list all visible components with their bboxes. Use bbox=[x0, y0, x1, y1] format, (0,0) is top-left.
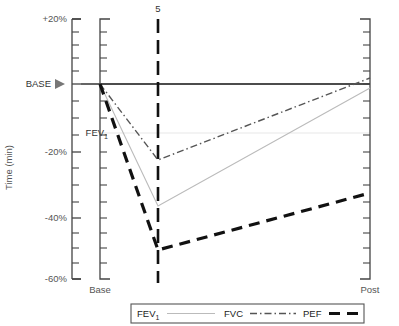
legend-label-pef: PEF bbox=[303, 308, 322, 319]
chart-legend: FEV1 FVC PEF bbox=[131, 304, 364, 323]
legend-label-fvc: FVC bbox=[224, 308, 243, 319]
x-tick-label-base: Base bbox=[89, 284, 111, 295]
x-tick-label-post: Post bbox=[360, 284, 379, 295]
line-chart: +20% -20% -40% -60% Time (min) BASE FEV1 bbox=[0, 0, 399, 326]
chart-container: +20% -20% -40% -60% Time (min) BASE FEV1 bbox=[0, 0, 399, 326]
y-axis-title: Time (min) bbox=[3, 145, 14, 190]
y-tick-label-minus60: -60% bbox=[45, 273, 68, 284]
time-marker-label: 5 bbox=[155, 3, 160, 14]
y-tick-label-minus20: -20% bbox=[45, 146, 68, 157]
y-tick-label-plus20: +20% bbox=[42, 13, 67, 24]
base-label: BASE bbox=[26, 78, 51, 89]
y-tick-label-minus40: -40% bbox=[45, 212, 68, 223]
